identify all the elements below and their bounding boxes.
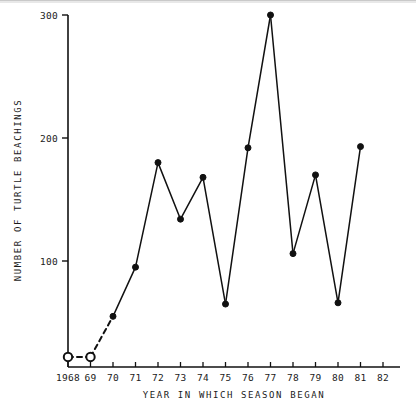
x-tick-label-1973: 73 [174, 372, 186, 383]
x-axis-title: YEAR IN WHICH SEASON BEGAN [143, 390, 325, 400]
segment-1974-1975 [203, 177, 226, 304]
x-tick-label-1980: 80 [332, 372, 344, 383]
x-tick-label-1979: 79 [309, 372, 321, 383]
x-tick-label-1970: 70 [107, 372, 119, 383]
data-point-1970 [110, 313, 116, 319]
data-point-1972 [155, 160, 161, 166]
data-series-markers [64, 12, 364, 361]
data-point-1968 [64, 353, 72, 361]
data-point-1980 [335, 300, 341, 306]
data-point-1969 [86, 353, 94, 361]
y-axis-title: NUMBER OF TURTLE BEACHINGS [13, 99, 23, 281]
data-point-1976 [245, 145, 251, 151]
data-point-1973 [178, 216, 184, 222]
x-tick-label-1977: 77 [264, 372, 276, 383]
segment-1973-1974 [181, 177, 204, 219]
x-axis-tick-labels: 19686970717273747576777879808182 [56, 372, 389, 383]
data-point-1971 [133, 264, 139, 270]
segment-1972-1973 [158, 163, 181, 220]
turtle-beachings-figure: 100200300 196869707172737475767778798081… [0, 0, 416, 410]
x-tick-label-1971: 71 [129, 372, 141, 383]
segment-1976-1977 [248, 15, 271, 148]
segment-1975-1976 [226, 148, 249, 304]
y-axis-tick-labels: 100200300 [40, 10, 58, 267]
y-axis-ticks [62, 15, 68, 261]
y-tick-label-200: 200 [40, 133, 58, 144]
line-chart-canvas: 100200300 196869707172737475767778798081… [0, 0, 416, 410]
x-tick-label-1975: 75 [219, 372, 231, 383]
x-tick-label-1974: 74 [197, 372, 209, 383]
x-tick-label-1972: 72 [152, 372, 164, 383]
data-point-1979 [313, 172, 319, 178]
y-tick-label-300: 300 [40, 10, 58, 21]
segment-1971-1972 [136, 163, 159, 268]
data-point-1977 [268, 12, 274, 18]
x-tick-label-1981: 81 [354, 372, 366, 383]
segment-1978-1979 [293, 175, 316, 254]
data-point-1974 [200, 174, 206, 180]
segment-1979-1980 [316, 175, 339, 303]
data-point-1981 [358, 144, 364, 150]
y-tick-label-100: 100 [40, 256, 58, 267]
x-tick-label-1982: 82 [377, 372, 389, 383]
segment-1970-1971 [113, 267, 136, 316]
x-tick-label-1968: 1968 [56, 372, 80, 383]
segment-1980-1981 [338, 147, 361, 303]
x-tick-label-1976: 76 [242, 372, 254, 383]
data-point-1978 [290, 251, 296, 257]
data-point-1975 [223, 301, 229, 307]
segment-1977-1978 [271, 15, 294, 254]
segment-1969-1970 [91, 316, 114, 357]
data-series-line [68, 15, 361, 357]
scan-top-edge [0, 0, 416, 3]
x-tick-label-1978: 78 [287, 372, 299, 383]
x-tick-label-1969: 69 [84, 372, 96, 383]
